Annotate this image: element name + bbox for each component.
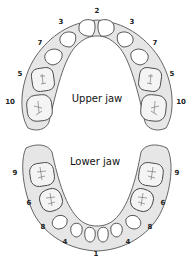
upper-tooth-label: 10 <box>176 98 186 106</box>
upper-tooth-label: 5 <box>170 70 175 78</box>
upper-lateral-left <box>60 32 76 47</box>
lower-tooth-label: 9 <box>13 169 18 177</box>
lower-lateral-left <box>71 223 82 237</box>
lower-tooth-label: 6 <box>27 199 32 207</box>
upper-molar1-left <box>30 67 55 93</box>
upper-tooth-label: 7 <box>153 39 158 47</box>
upper-tooth-label: 3 <box>59 18 64 26</box>
lower-jaw: Lower jaw <box>23 145 171 251</box>
lower-incisor-right <box>98 227 109 242</box>
upper-tooth-label: 7 <box>38 39 43 47</box>
upper-tooth-label: 2 <box>95 7 100 15</box>
lower-molar2-left <box>29 161 56 187</box>
lower-canine-right <box>126 215 141 229</box>
upper-jaw-label: Upper jaw <box>72 93 123 104</box>
lower-molar2-right <box>137 161 164 187</box>
upper-tooth-label: 10 <box>5 98 15 106</box>
upper-lateral-right <box>117 32 133 47</box>
upper-tooth-label: 5 <box>18 70 23 78</box>
lower-tooth-label: 6 <box>161 199 166 207</box>
lower-tooth-label: 4 <box>63 238 68 246</box>
upper-incisor-left <box>79 20 95 37</box>
upper-incisor-right <box>98 20 114 37</box>
lower-tooth-label: 8 <box>148 223 153 231</box>
upper-molar2-right <box>140 94 168 122</box>
lower-tooth-label: 1 <box>94 250 99 258</box>
upper-molar2-left <box>26 94 54 122</box>
lower-tooth-label: 8 <box>41 223 46 231</box>
lower-lateral-right <box>111 223 122 237</box>
upper-jaw: Upper jaw <box>22 20 172 130</box>
upper-tooth-label: 3 <box>130 18 135 26</box>
lower-tooth-label: 9 <box>175 169 180 177</box>
teeth-diagram: Upper jaw Lower jaw 23377551010 99668844… <box>0 0 193 265</box>
upper-molar1-right <box>138 67 163 93</box>
lower-incisor-left <box>85 227 96 242</box>
lower-tooth-label: 4 <box>126 238 131 246</box>
lower-canine-left <box>52 215 67 229</box>
lower-jaw-label: Lower jaw <box>70 156 120 167</box>
